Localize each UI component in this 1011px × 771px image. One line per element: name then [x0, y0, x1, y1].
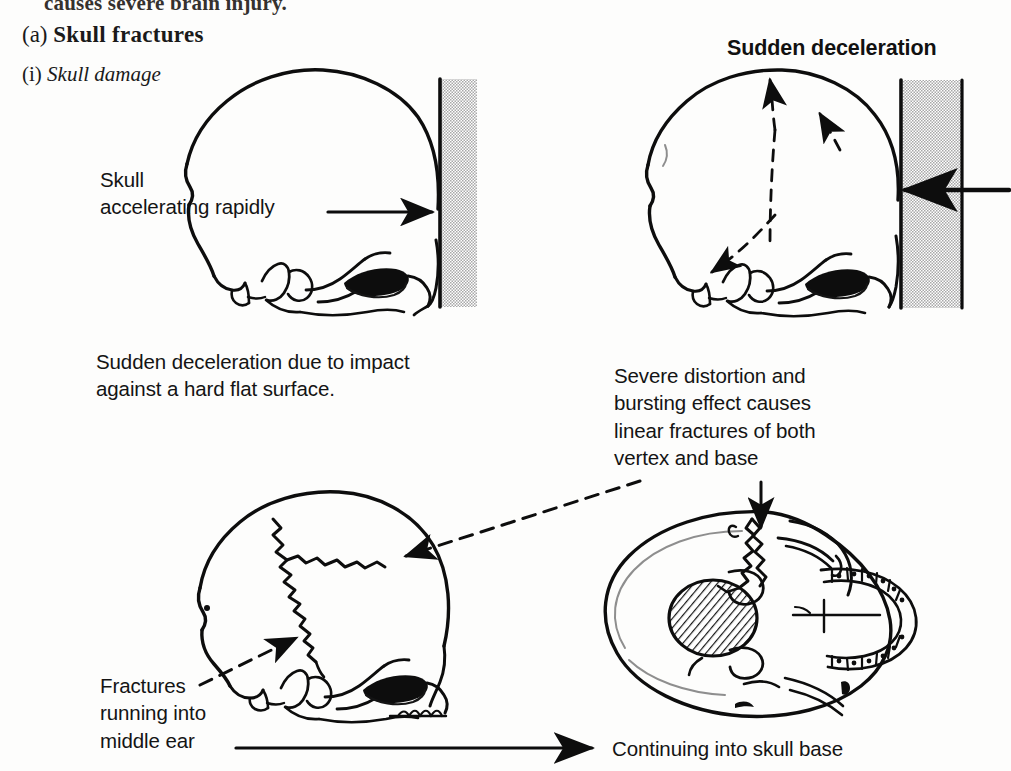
foramen-magnum	[669, 580, 757, 656]
panel-bottom-left-skull-linear-fractures	[199, 481, 640, 722]
dashed-force-vectors	[712, 80, 840, 272]
arrow-leader-middle-ear	[200, 638, 296, 685]
fracture-lines-vault	[273, 519, 385, 677]
arrow-leader-severe-distortion	[406, 481, 640, 556]
figure-drawing-layer	[0, 0, 1011, 771]
panel-top-right-skull-sudden-deceleration	[647, 70, 1009, 316]
panel-top-left-skull-impacting-wall	[186, 70, 477, 315]
figure-page: causes severe brain injury. (a) Skull fr…	[0, 0, 1011, 771]
panel-bottom-right-skull-base	[605, 482, 916, 716]
wall-hard-flat-surface-right	[901, 80, 962, 308]
wall-hard-flat-surface-left	[440, 79, 477, 307]
